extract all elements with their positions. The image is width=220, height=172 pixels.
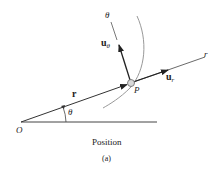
position-vector-label: r: [72, 89, 76, 99]
unit-transverse-subscript: θ: [107, 42, 110, 50]
unit-transverse-arrow: [119, 45, 130, 80]
transverse-axis-line: [111, 22, 117, 40]
angle-label: θ: [68, 108, 72, 117]
angle-arc: [63, 107, 66, 122]
origin-label: O: [16, 126, 23, 135]
angle-arrowhead: [61, 105, 65, 109]
unit-transverse-label: uθ: [101, 38, 110, 50]
transverse-axis-label: θ: [105, 11, 109, 20]
radial-axis-label: r: [204, 50, 208, 59]
figure-sublabel: (a): [102, 155, 111, 163]
unit-radial-subscript: r: [172, 76, 175, 84]
figure-caption: Position: [92, 138, 122, 147]
polar-coordinates-diagram: θ uθ r ur P r θ O Position (a): [0, 0, 220, 172]
unit-radial-label: ur: [166, 72, 174, 84]
point-p-label: P: [134, 86, 140, 95]
